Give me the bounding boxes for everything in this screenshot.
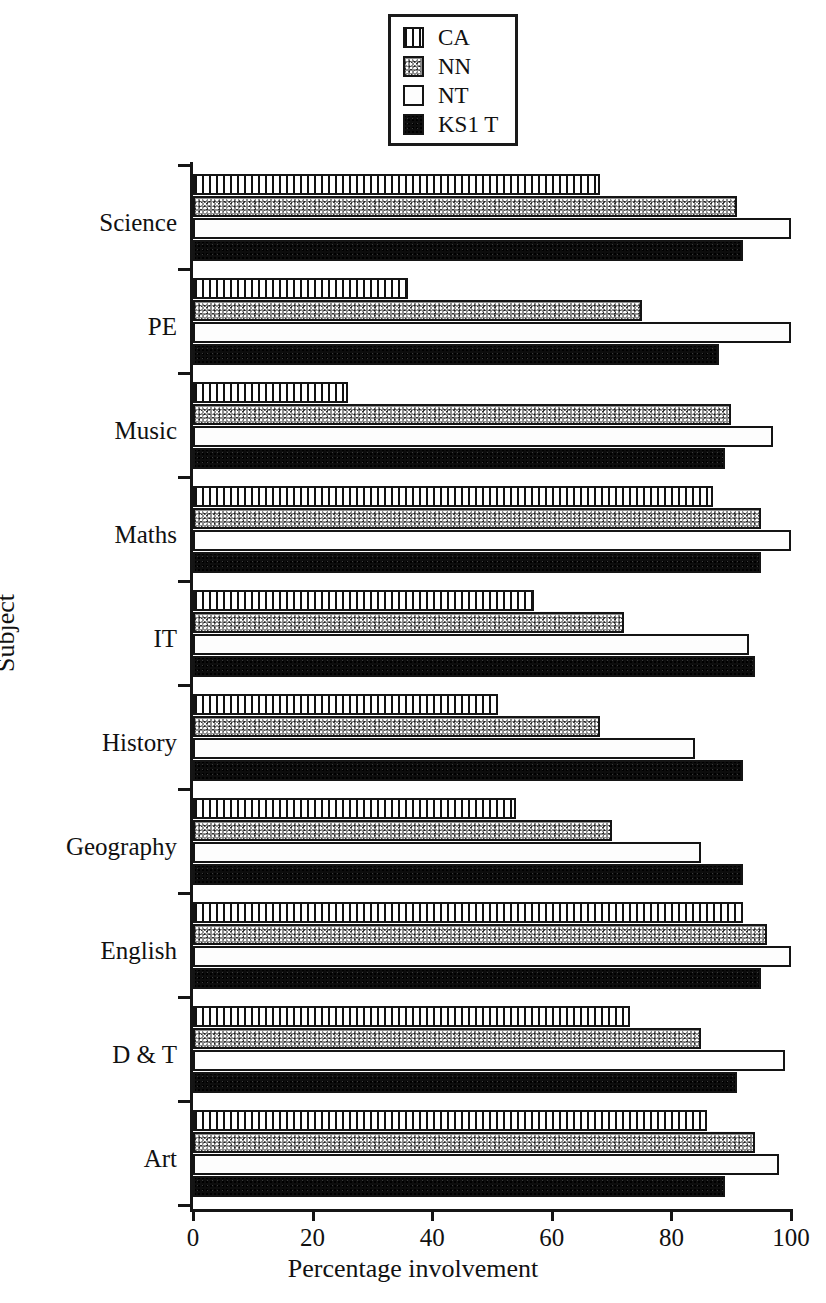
- x-axis-tick-label: 40: [420, 1225, 445, 1250]
- legend-item: KS1 T: [403, 110, 515, 139]
- bar-nt-english: [193, 946, 791, 967]
- y-axis-label-art: Art: [144, 1146, 177, 1171]
- legend-swatch-ks1t: [403, 114, 424, 135]
- bar-ks1t-it: [193, 656, 755, 677]
- bar-group: [193, 688, 791, 792]
- bar-group: [193, 272, 791, 376]
- bar-nt-maths: [193, 530, 791, 551]
- bar-nn-maths: [193, 508, 761, 529]
- bar-nn-pe: [193, 300, 642, 321]
- bar-ks1t-pe: [193, 344, 719, 365]
- bar-nn-geography: [193, 820, 612, 841]
- y-axis-category-labels: SciencePEMusicMathsITHistoryGeographyEng…: [0, 168, 185, 1208]
- y-axis-label-science: Science: [99, 210, 177, 235]
- y-axis-label-it: IT: [153, 626, 177, 651]
- bar-ks1t-maths: [193, 552, 761, 573]
- legend-swatch-nn: [403, 56, 424, 77]
- y-axis-tick: [178, 164, 193, 167]
- x-axis-tick-label: 0: [187, 1225, 200, 1250]
- y-axis-label-geography: Geography: [66, 834, 177, 859]
- x-axis-tick: [790, 1209, 793, 1221]
- bar-group: [193, 376, 791, 480]
- y-axis-tick: [178, 580, 193, 583]
- x-axis-tick: [431, 1209, 434, 1221]
- legend-label-ca: CA: [438, 26, 470, 49]
- y-axis-tick: [178, 268, 193, 271]
- y-axis-tick: [178, 996, 193, 999]
- bar-nn-it: [193, 612, 624, 633]
- bar-group: [193, 896, 791, 1000]
- legend-label-nt: NT: [438, 84, 469, 107]
- y-axis-title: Subject: [0, 594, 19, 672]
- bar-nt-science: [193, 218, 791, 239]
- x-axis-tick: [192, 1209, 195, 1221]
- bar-ks1t-geography: [193, 864, 743, 885]
- bar-ca-english: [193, 902, 743, 923]
- y-axis-tick: [178, 372, 193, 375]
- legend-item: NN: [403, 52, 515, 81]
- bar-group: [193, 792, 791, 896]
- y-axis-label-english: English: [101, 938, 177, 963]
- bar-group: [193, 584, 791, 688]
- legend-item: CA: [403, 23, 515, 52]
- bar-nn-history: [193, 716, 600, 737]
- chart-legend: CA NN NT KS1 T: [388, 14, 518, 146]
- y-axis-tick: [178, 684, 193, 687]
- y-axis-tick: [178, 476, 193, 479]
- y-axis-label-d-t: D & T: [112, 1042, 177, 1067]
- legend-label-ks1t: KS1 T: [438, 113, 498, 136]
- y-axis-label-pe: PE: [148, 314, 177, 339]
- legend-swatch-nt: [403, 85, 424, 106]
- bar-nt-history: [193, 738, 695, 759]
- x-axis-tick-label: 80: [659, 1225, 684, 1250]
- y-axis-tick: [178, 1100, 193, 1103]
- bar-ca-d-t: [193, 1006, 630, 1027]
- x-axis-tick-label: 100: [772, 1225, 810, 1250]
- bar-group: [193, 480, 791, 584]
- bar-nn-d-t: [193, 1028, 701, 1049]
- bar-ca-history: [193, 694, 498, 715]
- bar-ks1t-music: [193, 448, 725, 469]
- legend-label-nn: NN: [438, 55, 471, 78]
- bar-chart: CA NN NT KS1 T SciencePEMusicMathsITHist…: [0, 0, 826, 1303]
- bar-ks1t-science: [193, 240, 743, 261]
- x-axis-tick-label: 20: [300, 1225, 325, 1250]
- bar-ca-geography: [193, 798, 516, 819]
- bar-group: [193, 1000, 791, 1104]
- bar-group: [193, 168, 791, 272]
- bar-ks1t-d-t: [193, 1072, 737, 1093]
- y-axis-label-history: History: [102, 730, 177, 755]
- y-axis-label-music: Music: [115, 418, 178, 443]
- bar-nt-art: [193, 1154, 779, 1175]
- bar-ks1t-english: [193, 968, 761, 989]
- bar-nn-english: [193, 924, 767, 945]
- bar-group: [193, 1104, 791, 1208]
- x-axis-tick-label: 60: [539, 1225, 564, 1250]
- bar-ca-pe: [193, 278, 408, 299]
- bar-nt-music: [193, 426, 773, 447]
- y-axis-label-maths: Maths: [115, 522, 178, 547]
- bar-nt-pe: [193, 322, 791, 343]
- y-axis-tick: [178, 1204, 193, 1207]
- x-axis-line: [190, 1209, 791, 1212]
- x-axis-tick: [551, 1209, 554, 1221]
- bar-ca-music: [193, 382, 348, 403]
- y-axis-tick: [178, 788, 193, 791]
- plot-area: 020406080100: [193, 168, 791, 1208]
- bar-ca-art: [193, 1110, 707, 1131]
- bar-nn-art: [193, 1132, 755, 1153]
- x-axis-tick: [312, 1209, 315, 1221]
- x-axis-title: Percentage involvement: [0, 1255, 826, 1283]
- bar-ca-maths: [193, 486, 713, 507]
- bar-nt-it: [193, 634, 749, 655]
- bar-ks1t-history: [193, 760, 743, 781]
- legend-item: NT: [403, 81, 515, 110]
- bar-nn-music: [193, 404, 731, 425]
- bar-nt-d-t: [193, 1050, 785, 1071]
- bar-ca-science: [193, 174, 600, 195]
- bar-ks1t-art: [193, 1176, 725, 1197]
- legend-swatch-ca: [403, 27, 424, 48]
- x-axis-tick: [670, 1209, 673, 1221]
- bar-ca-it: [193, 590, 534, 611]
- y-axis-tick: [178, 892, 193, 895]
